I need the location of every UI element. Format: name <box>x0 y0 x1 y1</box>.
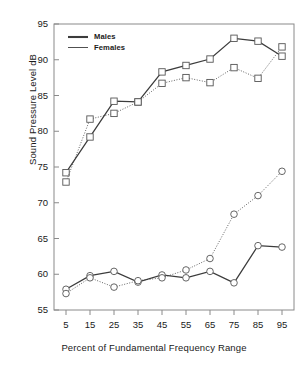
x-tick-label: 85 <box>246 319 270 330</box>
x-tick-label: 95 <box>270 319 294 330</box>
data-point-marker <box>231 64 237 70</box>
data-point-marker <box>279 53 285 59</box>
data-point-marker <box>111 98 117 104</box>
chart-legend <box>68 37 88 48</box>
y-axis-title: Sound Pressure Level dB <box>27 10 38 210</box>
x-tick-label: 65 <box>198 319 222 330</box>
data-point-marker <box>135 277 142 284</box>
chart-figure: 556065707580859095 5152535455565758595 S… <box>0 0 308 366</box>
x-tick-label: 15 <box>78 319 102 330</box>
legend-label: Females <box>94 43 125 52</box>
y-tick-label: 60 <box>22 268 48 279</box>
data-point-marker <box>159 275 166 282</box>
x-tick-label: 5 <box>54 319 78 330</box>
legend-label: Males <box>94 32 116 41</box>
data-point-marker <box>279 244 286 251</box>
x-tick-label: 55 <box>174 319 198 330</box>
data-point-marker <box>279 44 285 50</box>
data-point-marker <box>183 267 190 274</box>
data-point-marker <box>63 179 69 185</box>
data-point-marker <box>87 275 94 282</box>
data-point-marker <box>231 35 237 41</box>
data-point-marker <box>135 99 141 105</box>
x-tick-label: 25 <box>102 319 126 330</box>
data-point-marker <box>231 280 238 287</box>
data-point-marker <box>183 74 189 80</box>
series-line <box>66 47 282 182</box>
series-line <box>66 171 282 293</box>
x-tick-label: 35 <box>126 319 150 330</box>
data-point-marker <box>111 284 118 291</box>
data-point-marker <box>159 69 165 75</box>
data-point-marker <box>111 110 117 116</box>
x-tick-label: 75 <box>222 319 246 330</box>
data-point-marker <box>183 275 190 282</box>
data-point-marker <box>183 62 189 68</box>
data-point-marker <box>255 38 261 44</box>
data-point-marker <box>207 56 213 62</box>
y-tick-label: 65 <box>22 233 48 244</box>
x-axis-title: Percent of Fundamental Frequency Range <box>0 342 308 353</box>
data-point-marker <box>207 79 213 85</box>
data-point-marker <box>231 211 238 218</box>
data-point-marker <box>255 75 261 81</box>
data-point-marker <box>279 168 286 175</box>
data-series <box>63 35 286 297</box>
data-point-marker <box>159 80 165 86</box>
x-tick-label: 45 <box>150 319 174 330</box>
y-tick-label: 55 <box>22 304 48 315</box>
data-point-marker <box>255 192 262 199</box>
data-point-marker <box>87 134 93 140</box>
data-point-marker <box>255 242 262 249</box>
series-line <box>66 246 282 290</box>
series-line <box>66 38 282 172</box>
data-point-marker <box>63 290 70 297</box>
data-point-marker <box>63 170 69 176</box>
data-point-marker <box>111 268 118 275</box>
data-point-marker <box>87 116 93 122</box>
axes <box>54 24 294 315</box>
data-point-marker <box>207 255 214 262</box>
data-point-marker <box>207 268 214 275</box>
